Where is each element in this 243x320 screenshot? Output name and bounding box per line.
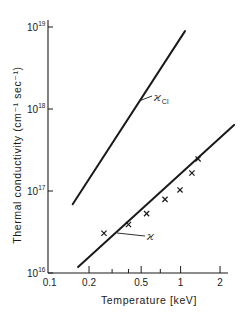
y-axis-title-group: Thermal conductivity (cm⁻¹ sec⁻¹) (11, 66, 23, 243)
x-ticks: 0.10.20.512 (43, 266, 224, 288)
x-tick-label: 0.1 (43, 277, 57, 288)
x-tick-label: 2 (217, 277, 223, 288)
chart: Thermal conductivity (cm⁻¹ sec⁻¹) 101610… (0, 0, 243, 320)
series-line (78, 125, 234, 267)
x-marker (144, 211, 149, 216)
x-axis-title: Temperature [keV] (101, 294, 197, 306)
x-marker (126, 222, 131, 227)
series-line (73, 31, 185, 204)
y-tick-label: 1018 (27, 102, 46, 115)
kappa-leader (117, 233, 145, 236)
series-labels: ϰClϰ (117, 91, 169, 243)
y-ticks: 1016101710181019 (27, 20, 53, 279)
x-marker (189, 170, 194, 175)
x-marker (101, 231, 106, 236)
y-tick-label: 1019 (27, 20, 46, 33)
y-axis-title: Thermal conductivity (cm⁻¹ sec⁻¹) (11, 66, 23, 243)
y-tick-label: 1017 (27, 184, 46, 197)
x-marker (177, 187, 182, 192)
x-tick-label: 1 (178, 277, 184, 288)
x-tick-label: 0.5 (134, 277, 148, 288)
x-tick-label: 0.2 (82, 277, 96, 288)
x-marker (162, 197, 167, 202)
kappa-label: ϰ (146, 230, 154, 243)
kappa-cl-label: ϰCl (153, 91, 169, 105)
